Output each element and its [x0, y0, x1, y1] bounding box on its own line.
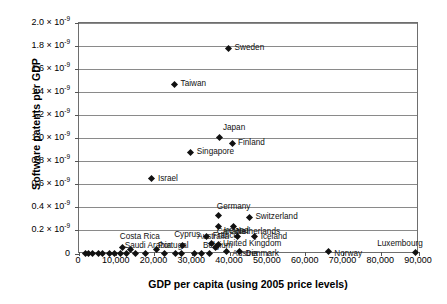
gridline-horizontal [79, 115, 417, 116]
gridline-horizontal [79, 69, 417, 70]
y-axis-tickmark [75, 69, 79, 70]
y-axis-tickmark [75, 138, 79, 139]
data-point-label: Singapore [197, 148, 234, 156]
scatter-chart: Software patents per GDP 00.2 × 10-90.4 … [0, 0, 447, 304]
y-axis-tick-label: 2.0 × 10-9 [0, 18, 74, 27]
x-axis-tick-labels: 010,00020,00030,00040,00050,00060,00070,… [78, 256, 418, 270]
gridline-horizontal [79, 23, 417, 24]
data-point-label: Sweden [235, 44, 265, 52]
data-point-label: Germany [217, 203, 251, 211]
data-point[interactable] [171, 81, 178, 88]
x-axis-tick-label: 40,000 [215, 256, 243, 265]
data-point-label: Taiwan [181, 80, 207, 88]
data-point-label: Finland [238, 139, 265, 147]
x-axis-tick-label: 30,000 [178, 256, 206, 265]
data-point-label: Cyprus [174, 231, 200, 239]
y-axis-tick-label: 0.2 × 10-9 [0, 225, 74, 234]
data-point-label: Japan [223, 124, 245, 132]
x-axis-tick-label: 60,000 [291, 256, 319, 265]
y-axis-tick-label: 0.8 × 10-9 [0, 156, 74, 165]
y-axis-tickmark [75, 115, 79, 116]
y-axis-tickmark [75, 46, 79, 47]
x-axis-title: GDP per capita (using 2005 price levels) [78, 278, 418, 290]
x-axis-tick-label: 70,000 [329, 256, 357, 265]
data-point[interactable] [246, 214, 253, 221]
y-axis-tickmark [75, 92, 79, 93]
y-axis-tickmark [75, 207, 79, 208]
data-point-label: Luxembourg [377, 240, 423, 248]
data-point-label: Portugal [158, 242, 189, 250]
gridline-horizontal [79, 92, 417, 93]
y-axis-tickmark [75, 184, 79, 185]
x-axis-tick-label: 80,000 [366, 256, 394, 265]
y-axis-tickmark [75, 230, 79, 231]
gridline-horizontal [79, 184, 417, 185]
y-axis-tick-label: 1.0 × 10-9 [0, 133, 74, 142]
data-point-label: Switzerland [255, 213, 297, 221]
gridline-horizontal [79, 161, 417, 162]
data-point[interactable] [187, 149, 194, 156]
data-point[interactable] [216, 134, 223, 141]
y-axis-tick-label: 0 [0, 249, 74, 258]
y-axis-tick-label: 1.2 × 10-9 [0, 110, 74, 119]
data-point[interactable] [228, 140, 235, 147]
y-axis-tick-label: 1.6 × 10-9 [0, 64, 74, 73]
x-axis-tick-label: 50,000 [253, 256, 281, 265]
x-axis-tick-label: 0 [75, 256, 80, 265]
y-axis-tick-label: 1.4 × 10-9 [0, 87, 74, 96]
data-point-label: Israel [158, 175, 178, 183]
y-axis-tickmark [75, 23, 79, 24]
x-axis-tick-label: 20,000 [140, 256, 168, 265]
y-axis-tick-label: 0.6 × 10-9 [0, 179, 74, 188]
y-axis-tick-label: 0.4 × 10-9 [0, 202, 74, 211]
y-axis-tick-labels: 00.2 × 10-90.4 × 10-90.6 × 10-90.8 × 10-… [0, 0, 74, 304]
data-point[interactable] [215, 212, 222, 219]
data-point[interactable] [148, 175, 155, 182]
y-axis-tick-label: 1.8 × 10-9 [0, 41, 74, 50]
plot-area: SwedenTaiwanJapanFinlandSingaporeIsraelG… [78, 22, 418, 253]
x-axis-tick-label: 10,000 [102, 256, 130, 265]
x-axis-tick-label: 90,000 [404, 256, 432, 265]
y-axis-tickmark [75, 161, 79, 162]
